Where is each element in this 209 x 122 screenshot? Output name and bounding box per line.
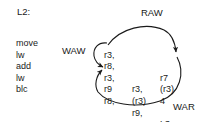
dependence-label-waw: WAW [62,45,86,56]
dependence-diagram: L2: move lw add lw blc r3, r7 r8, (r3) r… [0,0,209,122]
raw-arc [108,26,176,52]
dependence-label-war: WAR [173,101,195,112]
waw-arc [94,43,107,67]
war-arc [96,57,181,105]
dependence-label-raw: RAW [141,7,163,18]
